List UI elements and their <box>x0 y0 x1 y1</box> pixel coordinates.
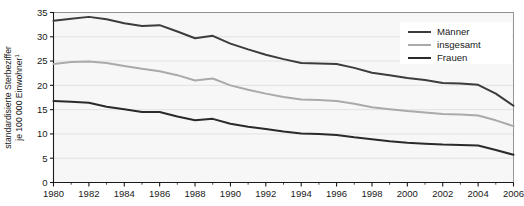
x-tick-label: 1996 <box>326 188 347 199</box>
y-axis-title: standardisierte Sterbezifferje 100 000 E… <box>3 46 24 149</box>
y-axis-tick-labels: 05101520253035 <box>37 7 48 188</box>
svg-text:standardisierte Sterbezifferje: standardisierte Sterbezifferje 100 000 E… <box>3 46 24 149</box>
legend-label: Männer <box>437 26 470 37</box>
x-tick-label: 1998 <box>361 188 382 199</box>
y-tick-label: 25 <box>37 55 48 66</box>
x-tick-label: 2002 <box>432 188 453 199</box>
line-chart: 05101520253035 1980198219841986198819901… <box>0 0 524 206</box>
y-axis <box>50 12 54 183</box>
x-axis-tick-labels: 1980198219841986198819901992199419961998… <box>43 188 524 199</box>
x-tick-label: 1984 <box>114 188 135 199</box>
y-tick-label: 10 <box>37 128 48 139</box>
legend-label: insgesamt <box>437 39 481 50</box>
y-tick-label: 0 <box>42 177 47 188</box>
x-tick-label: 1980 <box>43 188 64 199</box>
x-tick-label: 1992 <box>255 188 276 199</box>
x-tick-label: 1990 <box>220 188 241 199</box>
y-tick-label: 5 <box>42 153 47 164</box>
y-tick-label: 15 <box>37 104 48 115</box>
y-tick-label: 35 <box>37 7 48 18</box>
x-tick-label: 1986 <box>149 188 170 199</box>
legend-label: Frauen <box>437 52 467 63</box>
y-tick-label: 20 <box>37 80 48 91</box>
x-tick-label: 1994 <box>291 188 312 199</box>
y-tick-label: 30 <box>37 31 48 42</box>
x-axis <box>53 183 514 187</box>
chart-container: 05101520253035 1980198219841986198819901… <box>0 0 524 206</box>
x-tick-label: 1988 <box>184 188 205 199</box>
x-tick-label: 2004 <box>468 188 489 199</box>
x-tick-label: 2000 <box>397 188 418 199</box>
x-tick-label: 1982 <box>78 188 99 199</box>
chart-legend: MännerinsgesamtFrauen <box>400 22 512 64</box>
x-tick-label: 2006 <box>503 188 524 199</box>
